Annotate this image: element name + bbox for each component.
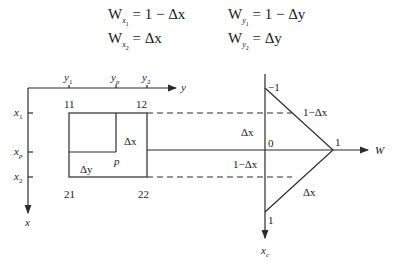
tick-y2: y2 <box>142 72 150 86</box>
xc-axis-label: xc <box>261 245 269 259</box>
origin-label: 0 <box>268 138 274 149</box>
tick-x1: x1 <box>14 107 22 121</box>
label-upper-left: Δx <box>241 127 254 138</box>
x-axis-label: x <box>25 217 30 228</box>
point-p-label: p <box>114 156 120 167</box>
label-upper-right: 1−Δx <box>303 107 327 118</box>
delta-y-label: Δy <box>80 164 93 175</box>
delta-x-label: Δx <box>124 136 137 147</box>
tick-xp: xp <box>14 146 22 160</box>
corner-11: 11 <box>64 99 75 110</box>
tick-yp: yp <box>111 72 119 86</box>
w-one-label: 1 <box>335 137 341 148</box>
diagram-canvas <box>0 0 393 264</box>
xc-top-value: −1 <box>268 82 280 93</box>
tick-y1: y1 <box>64 72 72 86</box>
xc-bottom-value: 1 <box>268 215 274 226</box>
tick-x2: x2 <box>14 171 22 185</box>
corner-21: 21 <box>64 189 75 200</box>
w-axis-label: W <box>375 145 384 156</box>
corner-22: 22 <box>138 189 149 200</box>
corner-12: 12 <box>136 99 147 110</box>
label-lower-left: 1−Δx <box>233 159 257 170</box>
label-lower-right: Δx <box>303 187 316 198</box>
y-axis-label: y <box>181 82 186 93</box>
